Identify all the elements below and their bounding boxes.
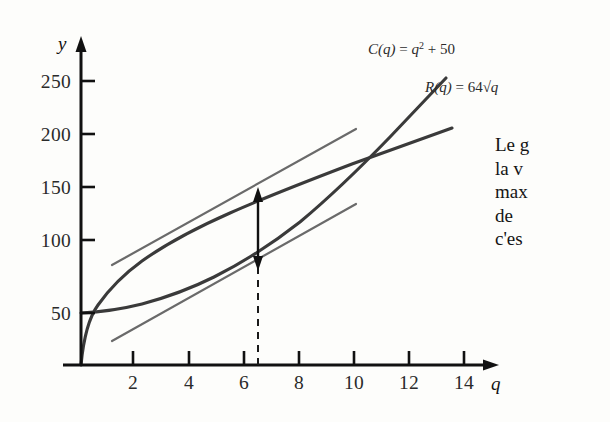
y-tick-label-200: 200 [41,124,71,145]
x-axis-ticks [133,351,464,365]
x-tick-label-4: 4 [184,372,194,393]
tangent-line-cost [112,204,356,341]
x-tick-label-8: 8 [294,372,304,393]
y-axis-name: y [56,33,67,54]
x-axis-arrowhead [483,360,499,371]
y-tick-label-100: 100 [41,230,71,251]
y-axis-arrowhead [76,36,87,52]
cost-curve [81,78,446,313]
prose-line-1: Le g [495,133,610,157]
graph-figure: 250 200 150 100 50 2 4 6 8 10 12 14 y q … [0,0,610,422]
cost-function-label: C(q) = q2 + 50 [368,40,455,58]
x-tick-label-6: 6 [239,372,249,393]
x-tick-label-2: 2 [128,372,138,393]
revenue-label-radicand: q [491,79,499,95]
cost-label-equals: = [396,41,412,57]
y-tick-label-250: 250 [41,71,71,92]
y-axis-ticks [81,81,95,313]
prose-paragraph: Le g la v max de c'es [495,133,610,251]
y-tick-label-150: 150 [41,177,71,198]
cost-label-cq: C(q) [368,41,396,58]
y-tick-label-50: 50 [51,303,71,324]
x-axis-name: q [491,373,501,394]
tangent-line-revenue [112,129,356,265]
max-profit-gap-arrow [253,187,263,271]
prose-line-3: max [495,180,610,204]
prose-line-2: la v [495,157,610,181]
revenue-label-coefficient: 64 [468,79,484,95]
cost-label-tail: + 50 [424,41,455,57]
revenue-function-label: R(q) = 64√q [424,79,499,96]
x-tick-label-10: 10 [344,372,364,393]
revenue-label-equals: = [452,79,468,95]
revenue-label-rq: R(q) [424,79,452,96]
x-tick-label-12: 12 [399,372,419,393]
prose-line-4: de [495,204,610,228]
x-tick-label-14: 14 [454,372,474,393]
prose-line-5: c'es [495,227,610,251]
